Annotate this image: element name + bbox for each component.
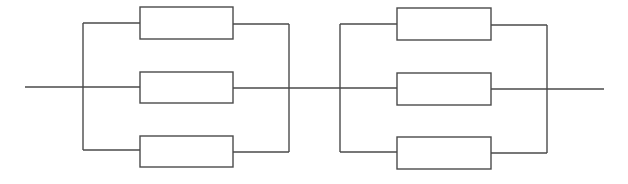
resistor-icon	[397, 73, 491, 105]
resistor-icon	[397, 8, 491, 40]
resistor-icon	[140, 7, 233, 39]
circuit-diagram	[0, 0, 628, 184]
resistor-icon	[397, 137, 491, 169]
resistor-icon	[140, 136, 233, 167]
resistor-icon	[140, 72, 233, 103]
